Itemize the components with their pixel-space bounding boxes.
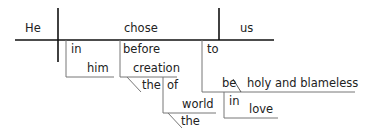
predicate-word: holy and blameless xyxy=(247,78,358,90)
infinitive-word: to xyxy=(207,44,219,56)
verb-word: chose xyxy=(124,23,158,35)
prep3-object-word: world xyxy=(182,99,214,111)
prep4-object-word: love xyxy=(249,104,273,116)
prep2-article-word: the xyxy=(142,80,161,92)
prep1-object-word: him xyxy=(87,63,109,75)
prep3-article-line xyxy=(168,113,182,128)
subject-word: He xyxy=(25,23,41,35)
prep3-word: of xyxy=(167,80,178,92)
infinitive-verb-word: be xyxy=(222,78,236,90)
prep1-word: in xyxy=(71,44,81,56)
prep2-word: before xyxy=(123,44,160,56)
object-word: us xyxy=(240,23,253,35)
prep3-article-word: the xyxy=(181,116,200,128)
prep2-object-word: creation xyxy=(133,63,180,75)
prep2-article-line xyxy=(127,77,141,92)
prep4-word: in xyxy=(229,96,239,108)
